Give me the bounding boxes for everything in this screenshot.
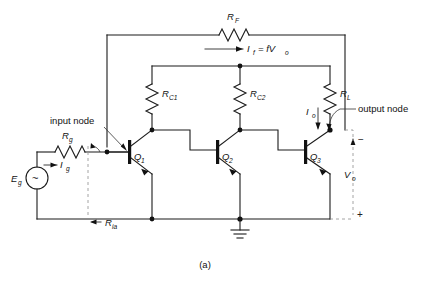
vo-minus-sign: − (358, 134, 364, 145)
q1-collector-lead (131, 130, 152, 146)
ig-arrowhead (51, 162, 58, 167)
ac-source-tilde: ~ (32, 172, 38, 184)
rf-label-sub: F (235, 17, 240, 24)
if-expression-sub: o (285, 49, 289, 56)
input-node-tick-arrowhead (90, 143, 95, 148)
if-label-sub: f (253, 49, 256, 56)
if-expression: = fV (258, 43, 277, 54)
q1-emitter-arrowhead (141, 169, 148, 176)
io-label-sub: o (312, 112, 316, 119)
eg-label: E (11, 173, 18, 184)
q2-label-sub: 2 (228, 157, 233, 164)
q2-base-bar (216, 140, 219, 164)
ig-label-sub: g (66, 165, 70, 173)
ria-arrowhead (90, 220, 97, 225)
q3-base-bar (304, 140, 307, 164)
ground-rail-dot-1 (150, 217, 155, 222)
rg-resistor-symbol (55, 146, 85, 158)
rg-label-sub: g (69, 136, 73, 144)
q1-label-sub: 1 (141, 157, 145, 164)
rc2-label: R (250, 88, 257, 99)
figure-caption: (a) (199, 259, 211, 270)
q2-to-q3-interconnect (240, 130, 304, 150)
vo-label: V (344, 169, 352, 180)
circuit-diagram-figure: R F I f = fV o R C1 R C2 R L (0, 0, 424, 283)
q3-collector-lead (307, 130, 330, 146)
rf-label: R (227, 11, 234, 22)
ria-label: R (105, 217, 112, 228)
feedback-resistor-symbol (219, 29, 249, 41)
ig-label: I (60, 159, 63, 170)
q2-collector-lead (219, 130, 240, 146)
vo-top-connection (345, 130, 353, 141)
input-node-leader-arrowhead (121, 143, 127, 151)
rc2-label-sub: C2 (257, 94, 266, 101)
eg-label-sub: g (18, 179, 22, 187)
rc1-label: R (162, 88, 169, 99)
io-label: I (306, 106, 309, 117)
q3-collector-node-dot (327, 127, 332, 132)
q3-label-sub: 3 (317, 157, 321, 164)
q2-emitter-arrowhead (229, 169, 236, 176)
output-node-callout-label: output node (358, 103, 408, 114)
vo-label-sub: o (352, 175, 356, 182)
circuit-schematic: R F I f = fV o R C1 R C2 R L (0, 0, 424, 283)
feedback-current-arrowhead (236, 46, 243, 52)
rc1-resistor-symbol (146, 84, 158, 114)
rl-label-sub: L (347, 94, 351, 101)
input-node-dot (105, 150, 110, 155)
rl-resistor-symbol (324, 84, 336, 114)
q3-emitter-arrowhead (319, 169, 326, 176)
rl-label: R (340, 88, 347, 99)
output-node-leader-line (329, 109, 356, 127)
io-arrowhead (315, 123, 320, 131)
rg-label: R (62, 130, 69, 141)
vo-top-arrowhead (351, 138, 356, 145)
rc2-resistor-symbol (234, 84, 246, 114)
vo-plus-sign: + (357, 209, 363, 220)
q1-to-q2-interconnect (152, 130, 216, 150)
input-node-callout-label: input node (50, 115, 94, 126)
rc1-label-sub: C1 (169, 94, 178, 101)
if-label: I (247, 43, 250, 54)
ria-label-sub: ia (112, 223, 117, 230)
